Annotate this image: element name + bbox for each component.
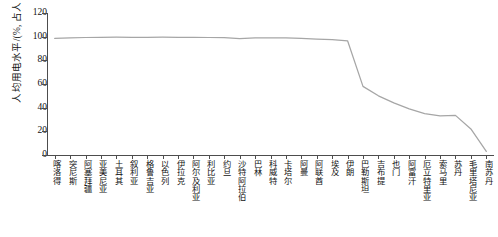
- x-axis-tick-label: 突尼斯: [65, 160, 76, 185]
- x-axis-tick-label: 叙利亚: [126, 160, 137, 185]
- x-axis-tick-label: 巴勒斯坦: [357, 160, 368, 193]
- x-axis-tick-mark: [101, 155, 102, 159]
- x-axis-tick-label: 格鲁吉亚: [142, 160, 153, 193]
- x-axis-tick-mark: [240, 155, 241, 159]
- x-axis-tick-label: 也门: [388, 160, 399, 177]
- x-axis-tick-mark: [271, 155, 272, 159]
- x-axis-tick-label: 卡塔尔: [280, 160, 291, 185]
- x-axis-tick-label: 埃及: [327, 160, 338, 177]
- x-axis-tick-mark: [178, 155, 179, 159]
- x-axis-tick-mark: [486, 155, 487, 159]
- x-axis-tick-mark: [471, 155, 472, 159]
- x-axis-tick-mark: [378, 155, 379, 159]
- y-axis-tick-group: 020406080100120: [0, 0, 47, 237]
- x-axis-tick-mark: [317, 155, 318, 159]
- x-axis-tick-mark: [163, 155, 164, 159]
- x-axis-tick-label: 沙特阿拉伯: [234, 160, 245, 202]
- x-axis-tick-mark: [86, 155, 87, 159]
- x-axis-tick-label: 土耳其: [111, 160, 122, 185]
- x-axis-tick-label: 伊朗: [342, 160, 353, 177]
- x-axis-tick-mark: [440, 155, 441, 159]
- x-axis-tick-label: 阿尔及利亚: [188, 160, 199, 202]
- x-axis-tick-mark: [286, 155, 287, 159]
- x-axis-tick-mark: [70, 155, 71, 159]
- x-axis-tick-mark: [363, 155, 364, 159]
- x-axis-tick-mark: [55, 155, 56, 159]
- x-axis-tick-mark: [348, 155, 349, 159]
- x-axis-tick-label: 亚美尼亚: [95, 160, 106, 193]
- x-axis-tick-label: 毛里塔尼亚: [465, 160, 476, 202]
- x-axis-tick-label: 喀洛得: [49, 160, 60, 185]
- x-axis-tick-mark: [332, 155, 333, 159]
- x-axis-tick-mark: [132, 155, 133, 159]
- x-axis-tick-mark: [301, 155, 302, 159]
- x-axis-tick-label: 以色列: [157, 160, 168, 185]
- x-axis-tick-mark: [409, 155, 410, 159]
- x-axis-label-group: 喀洛得突尼斯阿塞拜疆亚美尼亚土耳其叙利亚格鲁吉亚以色列伊拉克阿尔及利亚利比亚约旦…: [47, 160, 494, 237]
- y-axis-line: [47, 13, 48, 156]
- x-axis-tick-label: 阿塞拜疆: [80, 160, 91, 193]
- x-axis-tick-mark: [455, 155, 456, 159]
- x-axis-tick-mark: [224, 155, 225, 159]
- x-axis-tick-mark: [193, 155, 194, 159]
- x-axis-tick-label: 约旦: [219, 160, 230, 177]
- x-axis-tick-mark: [425, 155, 426, 159]
- x-axis-tick-label: 索马里: [435, 160, 446, 185]
- x-axis-tick-label: 伊拉克: [173, 160, 184, 185]
- x-axis-tick-label: 科威特: [265, 160, 276, 185]
- x-axis-tick-label: 巴林: [250, 160, 261, 177]
- x-axis-tick-label: 南苏丹: [481, 160, 492, 185]
- x-axis-tick-mark: [116, 155, 117, 159]
- x-axis-tick-mark: [394, 155, 395, 159]
- x-axis-tick-label: 厄立特里亚: [419, 160, 430, 202]
- x-axis-tick-label: 利比亚: [203, 160, 214, 185]
- x-axis-tick-mark: [209, 155, 210, 159]
- x-axis-tick-mark: [255, 155, 256, 159]
- x-axis-tick-label: 阿富汗: [404, 160, 415, 185]
- x-axis-tick-mark: [147, 155, 148, 159]
- chart-container: 人均用电水平/(%, 占人口比重) 020406080100120 喀洛得突尼斯…: [0, 0, 498, 237]
- x-axis-tick-label: 苏丹: [450, 160, 461, 177]
- x-axis-tick-label: 吉布提: [373, 160, 384, 185]
- x-axis-tick-label: 阿曼: [296, 160, 307, 177]
- x-axis-tick-label: 阿联酋: [311, 160, 322, 185]
